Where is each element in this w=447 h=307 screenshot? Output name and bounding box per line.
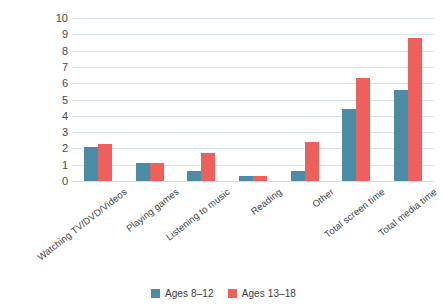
bar (187, 171, 201, 181)
x-axis-category-label: Watching TV/DVD/Videos (35, 186, 129, 263)
bar-group (331, 18, 383, 181)
y-axis-tick-label: 7 (52, 61, 68, 73)
legend-swatch-icon (228, 289, 237, 298)
bar-chart: 012345678910 Watching TV/DVD/VideosPlayi… (0, 0, 447, 307)
bar (305, 142, 319, 181)
gridline (72, 181, 434, 182)
bar-group (72, 18, 124, 181)
bar (253, 176, 267, 181)
bar (136, 163, 150, 181)
bar-group (175, 18, 227, 181)
bar (394, 90, 408, 181)
bar (291, 171, 305, 181)
x-axis-category-label: Other (310, 186, 336, 210)
y-axis-tick-label: 9 (52, 28, 68, 40)
legend-item[interactable]: Ages 13–18 (228, 288, 296, 299)
y-axis-tick-label: 6 (52, 77, 68, 89)
bar (84, 147, 98, 181)
bar-group (382, 18, 434, 181)
legend-label: Ages 13–18 (242, 288, 296, 299)
bar-group (279, 18, 331, 181)
bar (239, 176, 253, 181)
legend-label: Ages 8–12 (165, 288, 214, 299)
bar-group (227, 18, 279, 181)
y-axis-tick-label: 2 (52, 142, 68, 154)
y-axis-tick-label: 8 (52, 45, 68, 57)
legend-item[interactable]: Ages 8–12 (151, 288, 214, 299)
bar (201, 153, 215, 181)
y-axis-tick-label: 5 (52, 94, 68, 106)
bar (98, 144, 112, 181)
y-axis-tick-label: 0 (52, 175, 68, 187)
bar (408, 38, 422, 181)
y-axis-tick-label: 10 (52, 12, 68, 24)
chart-legend: Ages 8–12Ages 13–18 (0, 288, 447, 299)
bar (342, 109, 356, 181)
bar (356, 78, 370, 181)
y-axis-tick-label: 4 (52, 110, 68, 122)
legend-swatch-icon (151, 289, 160, 298)
plot-area (72, 18, 434, 181)
bar (150, 163, 164, 181)
y-axis-tick-label: 3 (52, 126, 68, 138)
bar-group (124, 18, 176, 181)
x-axis-category-label: Reading (249, 186, 284, 217)
y-axis-tick-label: 1 (52, 159, 68, 171)
